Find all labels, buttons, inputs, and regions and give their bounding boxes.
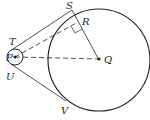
label-v: V <box>61 105 70 116</box>
label-r: R <box>81 16 90 27</box>
label-p: P <box>5 52 13 63</box>
diagram-canvas: S R T P Q U V <box>0 0 150 120</box>
point-p <box>13 55 16 58</box>
point-q <box>97 57 100 60</box>
tangent-line-ts <box>13 10 72 49</box>
dashed-line-pq <box>15 57 99 59</box>
label-q: Q <box>104 54 112 65</box>
right-angle-mark <box>71 26 82 33</box>
tangent-circles-diagram: S R T P Q U V <box>0 0 150 120</box>
label-s: S <box>66 0 73 11</box>
label-t: T <box>9 36 17 47</box>
tangent-line-uv <box>11 64 66 101</box>
label-u: U <box>6 71 15 82</box>
